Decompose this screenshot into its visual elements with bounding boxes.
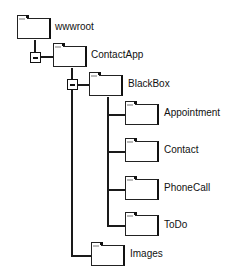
folder-icon [53, 43, 88, 67]
connector-contactapp-images [71, 255, 92, 257]
folder-icon [91, 242, 126, 266]
folder-icon [89, 72, 124, 96]
node-label: Images [130, 248, 163, 259]
connector-blackbox-phonecall [107, 189, 126, 191]
node-label: ToDo [164, 219, 187, 230]
folder-icon [125, 212, 160, 236]
folder-icon [125, 176, 160, 200]
node-label: wwwroot [55, 21, 94, 32]
folder-icon [125, 138, 160, 162]
connector-blackbox-todo [107, 225, 126, 227]
collapse-toggle-wwwroot[interactable] [30, 52, 41, 63]
minus-icon [33, 57, 38, 59]
node-label: BlackBox [128, 78, 170, 89]
connector-contactapp-vertical [71, 68, 73, 257]
folder-icon [17, 15, 52, 39]
node-label: PhoneCall [164, 182, 210, 193]
connector-blackbox-contact [107, 151, 126, 153]
folder-icon [125, 101, 160, 125]
connector-blackbox-vertical [107, 97, 109, 227]
node-label: Appointment [164, 107, 220, 118]
minus-icon [70, 84, 75, 86]
node-label: ContactApp [91, 49, 143, 60]
connector-blackbox-appointment [107, 114, 126, 116]
node-label: Contact [164, 144, 198, 155]
collapse-toggle-contactapp[interactable] [67, 79, 78, 90]
